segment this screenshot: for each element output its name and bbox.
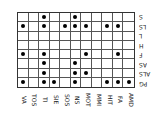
column-label: HIT <box>103 90 114 110</box>
grid-cell <box>123 78 134 87</box>
grid-cell <box>29 41 40 50</box>
grid-cell <box>92 13 103 22</box>
dot-marker <box>73 71 77 75</box>
grid-cell <box>102 13 113 22</box>
grid-cell <box>29 13 40 22</box>
dot-marker <box>105 24 109 28</box>
row-label: PG <box>139 79 147 89</box>
grid-cell <box>50 69 61 78</box>
grid-cell <box>113 41 124 50</box>
dot-marker <box>73 24 77 28</box>
grid-cell <box>102 78 113 87</box>
grid-cell <box>113 13 124 22</box>
dot-marker <box>52 80 56 84</box>
dot-marker <box>84 71 88 75</box>
grid-cell <box>39 41 50 50</box>
grid-cell <box>71 69 82 78</box>
row-label: H <box>139 41 144 51</box>
grid-cell <box>123 41 134 50</box>
grid-cell <box>92 59 103 68</box>
grid-cell <box>123 50 134 59</box>
dot-matrix-grid <box>17 12 135 88</box>
grid-cell <box>60 59 71 68</box>
grid-cell <box>81 22 92 31</box>
column-label: TI <box>38 90 49 110</box>
row-label: S <box>139 12 143 22</box>
grid-cell <box>123 13 134 22</box>
dot-marker <box>116 80 120 84</box>
row-label: L <box>139 31 142 41</box>
grid-cell <box>50 22 61 31</box>
dot-marker <box>42 24 46 28</box>
grid-cell <box>81 32 92 41</box>
grid-cell <box>102 22 113 31</box>
grid-cell <box>29 50 40 59</box>
grid-cell <box>18 32 29 41</box>
grid-cell <box>50 41 61 50</box>
dot-marker <box>73 80 77 84</box>
grid-cell <box>29 22 40 31</box>
column-label: VA <box>17 90 28 110</box>
grid-cell <box>81 78 92 87</box>
grid-cell <box>60 32 71 41</box>
grid-cell <box>81 13 92 22</box>
grid-cell <box>39 69 50 78</box>
grid-cell <box>102 59 113 68</box>
dot-marker <box>127 80 131 84</box>
grid-cell <box>113 69 124 78</box>
grid-cell <box>29 32 40 41</box>
row-label: F <box>139 50 142 60</box>
grid-cell <box>113 50 124 59</box>
grid-cell <box>60 13 71 22</box>
grid-cell <box>71 59 82 68</box>
dot-marker <box>21 52 25 56</box>
grid-cell <box>123 32 134 41</box>
grid-cell <box>71 32 82 41</box>
grid-cell <box>18 50 29 59</box>
dot-marker <box>63 24 67 28</box>
dot-marker <box>73 15 77 19</box>
grid-cell <box>113 22 124 31</box>
grid-cell <box>50 13 61 22</box>
grid-cell <box>39 78 50 87</box>
grid-cell <box>29 78 40 87</box>
grid-cell <box>60 78 71 87</box>
grid-cell <box>29 59 40 68</box>
column-label: MOT <box>81 90 92 110</box>
dot-marker <box>116 52 120 56</box>
grid-cell <box>60 41 71 50</box>
grid-cell <box>60 22 71 31</box>
dot-marker <box>116 24 120 28</box>
grid-cell <box>18 78 29 87</box>
grid-cell <box>39 22 50 31</box>
row-label: LS <box>139 22 146 32</box>
dot-marker <box>42 80 46 84</box>
grid-cell <box>113 59 124 68</box>
column-label: TOS <box>28 90 39 110</box>
grid-cell <box>29 69 40 78</box>
grid-cell <box>50 50 61 59</box>
grid-cell <box>18 22 29 31</box>
grid-cell <box>39 50 50 59</box>
grid-cell <box>81 59 92 68</box>
grid-cell <box>50 78 61 87</box>
grid-cell <box>71 22 82 31</box>
dot-marker <box>42 61 46 65</box>
dot-marker <box>84 52 88 56</box>
grid-cell <box>102 69 113 78</box>
grid-cell <box>81 41 92 50</box>
grid-cell <box>18 59 29 68</box>
grid-cell <box>92 32 103 41</box>
grid-cell <box>92 22 103 31</box>
grid-cell <box>50 32 61 41</box>
column-label: AMD <box>124 90 135 110</box>
column-label: SIE <box>49 90 60 110</box>
grid-cell <box>60 50 71 59</box>
dot-marker <box>21 24 25 28</box>
grid-cell <box>81 50 92 59</box>
column-label: SOS <box>60 90 71 110</box>
grid-cell <box>92 69 103 78</box>
grid-cell <box>81 69 92 78</box>
dot-marker <box>42 71 46 75</box>
grid-cell <box>102 32 113 41</box>
